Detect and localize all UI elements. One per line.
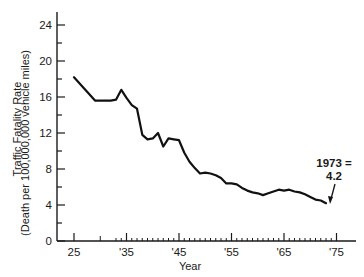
x-tick-label: '75	[329, 246, 344, 258]
annotation-text-line1: 1973 =	[316, 157, 352, 169]
x-axis-label: Year	[179, 260, 202, 272]
y-tick-label: 20	[39, 55, 52, 67]
y-tick-label: 16	[39, 91, 52, 103]
x-tick-label: 25	[68, 246, 81, 258]
x-tick-label: '35	[119, 246, 134, 258]
x-ticks: 25'35'45'55'65'75	[68, 233, 344, 258]
x-tick-label: '45	[172, 246, 187, 258]
fatality-rate-line	[74, 77, 326, 203]
x-tick-label: '55	[224, 246, 239, 258]
annotation-1973: 1973 = 4.2	[316, 157, 352, 204]
y-axis-sublabel: (Death per 100,000,000 vehicle miles)	[19, 43, 31, 243]
annotation-text-line2: 4.2	[326, 170, 342, 182]
y-tick-label: 0	[46, 235, 52, 247]
y-tick-label: 24	[39, 19, 52, 31]
y-tick-label: 8	[46, 163, 52, 175]
y-tick-label: 12	[39, 127, 52, 139]
x-tick-label: '65	[277, 246, 292, 258]
y-tick-label: 4	[46, 199, 53, 211]
axes	[57, 12, 356, 241]
y-ticks: 04812162024	[39, 19, 65, 247]
line-chart: 04812162024 25'35'45'55'65'75 1973 = 4.2…	[0, 0, 364, 277]
arrow-head-icon	[328, 196, 333, 204]
